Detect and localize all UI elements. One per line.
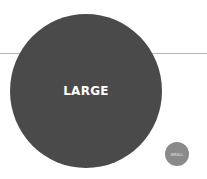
small-circle: SMALL [165, 142, 189, 166]
small-circle-label: SMALL [170, 152, 183, 157]
large-circle-label: LARGE [63, 84, 109, 98]
large-circle: LARGE [10, 14, 162, 168]
